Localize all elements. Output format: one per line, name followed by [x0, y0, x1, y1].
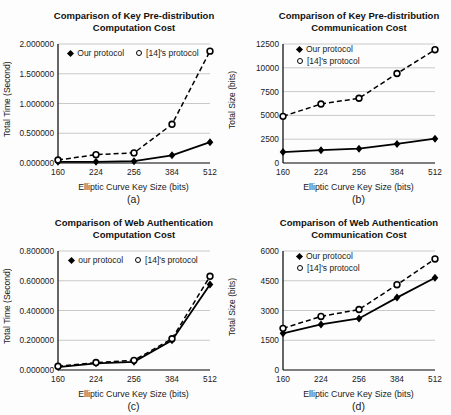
svg-text:256: 256 — [352, 374, 366, 384]
chart-a-sublabel: (a) — [58, 193, 209, 205]
chart-d-sublabel: (d) — [283, 400, 434, 412]
svg-text:0.000000: 0.000000 — [19, 365, 54, 375]
chart-c-legend: our protocol [14]'s protocol — [58, 255, 209, 265]
svg-text:1.000000: 1.000000 — [19, 99, 54, 109]
svg-text:224: 224 — [314, 374, 328, 384]
svg-text:1.500000: 1.500000 — [19, 69, 54, 79]
chart-b-sublabel: (b) — [283, 193, 434, 205]
chart-d-x-axis-label: Elliptic Curve Key Size (bits) — [283, 389, 434, 399]
svg-text:384: 384 — [165, 167, 179, 177]
chart-d-title: Comparison of Web Authentication Communi… — [271, 217, 447, 241]
svg-text:384: 384 — [165, 374, 179, 384]
legend-item-14s-protocol: [14]'s protocol — [136, 48, 199, 58]
chart-b-y-axis-label: Total Size (bits) — [225, 36, 239, 163]
svg-text:2.000000: 2.000000 — [19, 39, 54, 49]
legend-item-our-protocol: Our protocol — [68, 48, 124, 58]
svg-text:160: 160 — [51, 374, 65, 384]
filled-diamond-icon — [67, 49, 74, 56]
open-circle-icon — [135, 257, 141, 263]
svg-text:256: 256 — [127, 167, 141, 177]
svg-text:224: 224 — [89, 167, 103, 177]
legend-label: Our protocol — [306, 44, 353, 54]
svg-text:512: 512 — [428, 374, 442, 384]
legend-label: Our protocol — [77, 48, 124, 58]
legend-item-our-protocol: Our protocol — [297, 44, 353, 54]
svg-text:256: 256 — [352, 167, 366, 177]
legend-item-our-protocol: our protocol — [69, 255, 123, 265]
chart-a-x-axis-label: Elliptic Curve Key Size (bits) — [58, 182, 209, 192]
legend-label: [14]'s protocol — [307, 263, 360, 273]
svg-text:1500: 1500 — [261, 335, 280, 345]
chart-c-title: Comparison of Web Authentication Computa… — [46, 217, 222, 241]
chart-c-x-axis-label: Elliptic Curve Key Size (bits) — [58, 389, 209, 399]
chart-c-sublabel: (c) — [58, 400, 209, 412]
svg-text:512: 512 — [428, 167, 442, 177]
open-circle-icon — [136, 50, 142, 56]
chart-d-cell: Comparison of Web Authentication Communi… — [225, 207, 451, 415]
chart-c-y-axis-label: Total Time (Second) — [0, 243, 14, 370]
chart-b-x-axis-label: Elliptic Curve Key Size (bits) — [283, 182, 434, 192]
svg-text:224: 224 — [89, 374, 103, 384]
legend-label: our protocol — [78, 255, 123, 265]
svg-text:160: 160 — [276, 167, 290, 177]
svg-text:0.800000: 0.800000 — [19, 246, 54, 256]
svg-text:512: 512 — [203, 167, 217, 177]
chart-a-y-axis-label: Total Time (Second) — [0, 36, 14, 163]
svg-text:0.400000: 0.400000 — [19, 306, 54, 316]
svg-text:4500: 4500 — [261, 276, 280, 286]
open-circle-icon — [297, 58, 303, 64]
chart-c-cell: Comparison of Web Authentication Computa… — [0, 207, 225, 415]
chart-d-plot: Total Size (bits) 0150030004500600016022… — [225, 243, 451, 388]
chart-a-cell: Comparison of Key Pre-distribution Compu… — [0, 0, 225, 207]
chart-b-plot: Total Size (bits) 0250050007500100001250… — [225, 36, 451, 181]
filled-diamond-icon — [296, 45, 303, 52]
chart-b-legend: Our protocol [14]'s protocol — [297, 44, 360, 66]
chart-a-title: Comparison of Key Pre-distribution Compu… — [46, 10, 222, 34]
legend-label: [14]'s protocol — [145, 255, 198, 265]
filled-diamond-icon — [296, 252, 303, 259]
svg-text:384: 384 — [390, 167, 404, 177]
figure-grid: Comparison of Key Pre-distribution Compu… — [0, 0, 451, 415]
legend-item-14s-protocol: [14]'s protocol — [297, 263, 360, 273]
chart-d-y-axis-label: Total Size (bits) — [225, 243, 239, 370]
svg-text:0.600000: 0.600000 — [19, 276, 54, 286]
svg-text:7500: 7500 — [261, 87, 280, 97]
svg-text:0.200000: 0.200000 — [19, 335, 54, 345]
legend-label: [14]'s protocol — [307, 56, 360, 66]
svg-text:0.500000: 0.500000 — [19, 128, 54, 138]
filled-diamond-icon — [68, 256, 75, 263]
chart-a-plot: Total Time (Second) 0.0000000.5000001.00… — [0, 36, 225, 181]
legend-label: [14]'s protocol — [146, 48, 199, 58]
svg-text:512: 512 — [203, 374, 217, 384]
chart-b-cell: Comparison of Key Pre-distribution Commu… — [225, 0, 451, 207]
chart-a-legend: Our protocol [14]'s protocol — [58, 48, 209, 58]
legend-item-our-protocol: Our protocol — [297, 251, 353, 261]
svg-text:0.000000: 0.000000 — [19, 158, 54, 168]
chart-b-title: Comparison of Key Pre-distribution Commu… — [271, 10, 447, 34]
legend-item-14s-protocol: [14]'s protocol — [297, 56, 360, 66]
svg-text:10000: 10000 — [256, 63, 279, 73]
svg-text:3000: 3000 — [261, 306, 280, 316]
svg-text:12500: 12500 — [256, 39, 279, 49]
svg-text:2500: 2500 — [261, 134, 280, 144]
open-circle-icon — [297, 265, 303, 271]
svg-text:256: 256 — [127, 374, 141, 384]
chart-d-legend: Our protocol [14]'s protocol — [297, 251, 360, 273]
svg-text:224: 224 — [314, 167, 328, 177]
svg-text:6000: 6000 — [261, 246, 280, 256]
svg-text:5000: 5000 — [261, 110, 280, 120]
legend-item-14s-protocol: [14]'s protocol — [135, 255, 198, 265]
svg-text:384: 384 — [390, 374, 404, 384]
svg-text:160: 160 — [276, 374, 290, 384]
legend-label: Our protocol — [306, 251, 353, 261]
svg-text:160: 160 — [51, 167, 65, 177]
chart-c-plot: Total Time (Second) 0.0000000.2000000.40… — [0, 243, 225, 388]
